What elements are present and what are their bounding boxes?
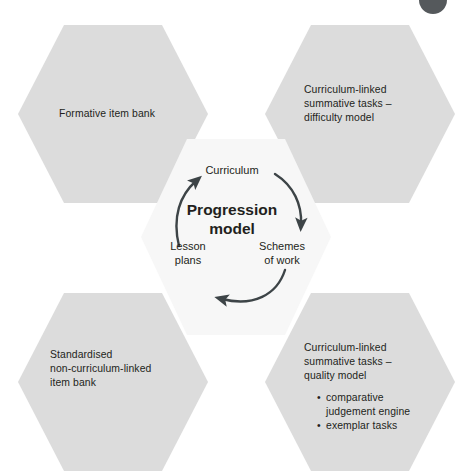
hexagon-label-standardised-item-bank: Standardised non-curriculum-linked item … [50, 348, 151, 391]
hexagon-label-curriculum-linked-difficulty: Curriculum-linked summative tasks – diff… [304, 83, 392, 126]
cycle-node-schemes-of-work: Schemes of work [241, 240, 323, 267]
bullet-line: comparative [326, 392, 384, 403]
hex-line: Standardised [50, 348, 151, 362]
arrow-schemes-to-lesson-icon [222, 270, 285, 301]
hex-line: non-curriculum-linked [50, 362, 151, 376]
diagram-canvas: Formative item bank Curriculum-linked su… [0, 0, 464, 474]
bullet-line: exemplar tasks [326, 420, 397, 431]
cycle-node-curriculum: Curriculum [0, 164, 464, 178]
hex-line: item bank [50, 376, 151, 390]
centre-title-line1: Progression [187, 201, 277, 218]
centre-title-line2: model [209, 220, 255, 237]
hex-line: Curriculum-linked [304, 83, 392, 97]
hexagon-label-curriculum-linked-quality: Curriculum-linked summative tasks – qual… [304, 341, 410, 433]
cycle-node-lesson-plans: Lesson plans [152, 240, 224, 267]
bullet-line: judgement engine [326, 405, 410, 419]
cycle-node-label: plans [175, 254, 201, 266]
cycle-node-label: Schemes [259, 240, 305, 252]
cycle-node-label: of work [264, 254, 299, 266]
quality-model-bullet-list: comparative judgement engine exemplar ta… [304, 391, 410, 434]
hex-line: Curriculum-linked [304, 341, 410, 355]
hexagon-label-formative-item-bank: Formative item bank [59, 107, 155, 121]
list-item: exemplar tasks [317, 419, 410, 433]
page-title: Progression model [0, 200, 464, 238]
list-item: comparative judgement engine [317, 391, 410, 419]
hex-line: difficulty model [304, 111, 392, 125]
hex-line: Formative item bank [59, 107, 155, 121]
hex-line: summative tasks – [304, 97, 392, 111]
hex-line: quality model [304, 369, 410, 383]
cycle-node-label: Curriculum [205, 164, 258, 176]
hex-line: summative tasks – [304, 355, 410, 369]
cycle-node-label: Lesson [170, 240, 205, 252]
